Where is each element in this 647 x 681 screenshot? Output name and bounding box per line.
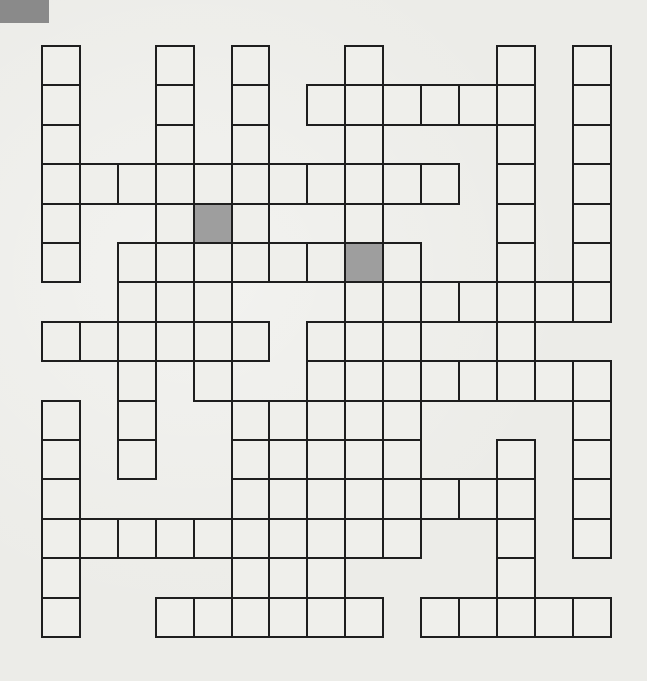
grid-cell[interactable] bbox=[458, 84, 498, 126]
grid-cell[interactable] bbox=[231, 439, 270, 480]
grid-cell[interactable] bbox=[79, 163, 119, 205]
grid-cell[interactable] bbox=[306, 360, 346, 402]
grid-cell[interactable] bbox=[155, 518, 195, 559]
grid-cell[interactable] bbox=[344, 518, 384, 559]
grid-cell[interactable] bbox=[155, 84, 195, 126]
grid-cell[interactable] bbox=[231, 478, 270, 520]
grid-cell[interactable] bbox=[231, 84, 270, 126]
grid-cell[interactable] bbox=[496, 597, 536, 638]
grid-cell[interactable] bbox=[344, 163, 384, 205]
grid-cell[interactable] bbox=[344, 478, 384, 520]
grid-cell[interactable] bbox=[382, 360, 422, 402]
grid-cell[interactable] bbox=[306, 242, 346, 283]
grid-cell[interactable] bbox=[306, 557, 346, 599]
grid-cell[interactable] bbox=[268, 163, 308, 205]
grid-cell[interactable] bbox=[193, 242, 233, 283]
grid-cell[interactable] bbox=[268, 518, 308, 559]
grid-cell[interactable] bbox=[572, 281, 612, 323]
grid-cell[interactable] bbox=[382, 439, 422, 480]
grid-cell[interactable] bbox=[572, 478, 612, 520]
grid-cell[interactable] bbox=[306, 84, 346, 126]
grid-cell[interactable] bbox=[306, 518, 346, 559]
grid-cell[interactable] bbox=[231, 163, 270, 205]
grid-cell[interactable] bbox=[420, 360, 460, 402]
grid-cell[interactable] bbox=[41, 557, 81, 599]
grid-cell[interactable] bbox=[41, 84, 81, 126]
grid-cell[interactable] bbox=[344, 281, 384, 323]
grid-cell[interactable] bbox=[382, 518, 422, 559]
grid-cell[interactable] bbox=[41, 478, 81, 520]
grid-cell[interactable] bbox=[382, 242, 422, 283]
grid-cell[interactable] bbox=[496, 281, 536, 323]
grid-cell[interactable] bbox=[268, 439, 308, 480]
grid-cell[interactable] bbox=[231, 45, 270, 86]
grid-cell[interactable] bbox=[41, 518, 81, 559]
grid-cell[interactable] bbox=[534, 597, 574, 638]
grid-cell[interactable] bbox=[193, 281, 233, 323]
grid-cell[interactable] bbox=[572, 400, 612, 441]
grid-cell[interactable] bbox=[572, 518, 612, 559]
grid-cell[interactable] bbox=[382, 163, 422, 205]
grid-cell[interactable] bbox=[420, 281, 460, 323]
grid-cell[interactable] bbox=[496, 439, 536, 480]
grid-cell[interactable] bbox=[382, 478, 422, 520]
grid-cell[interactable] bbox=[155, 163, 195, 205]
grid-cell[interactable] bbox=[268, 597, 308, 638]
grid-cell[interactable] bbox=[496, 45, 536, 86]
grid-cell[interactable] bbox=[193, 597, 233, 638]
grid-cell[interactable] bbox=[155, 242, 195, 283]
grid-cell[interactable] bbox=[572, 597, 612, 638]
grid-cell[interactable] bbox=[155, 124, 195, 165]
grid-cell[interactable] bbox=[572, 45, 612, 86]
grid-cell[interactable] bbox=[306, 439, 346, 480]
grid-cell[interactable] bbox=[344, 124, 384, 165]
grid-cell[interactable] bbox=[572, 439, 612, 480]
grid-cell[interactable] bbox=[155, 281, 195, 323]
grid-cell[interactable] bbox=[572, 203, 612, 244]
grid-cell[interactable] bbox=[344, 360, 384, 402]
grid-cell[interactable] bbox=[382, 84, 422, 126]
grid-cell[interactable] bbox=[458, 360, 498, 402]
grid-cell[interactable] bbox=[268, 400, 308, 441]
grid-cell[interactable] bbox=[344, 400, 384, 441]
grid-cell[interactable] bbox=[344, 45, 384, 86]
grid-cell[interactable] bbox=[458, 478, 498, 520]
grid-cell[interactable] bbox=[306, 321, 346, 362]
grid-cell[interactable] bbox=[193, 321, 233, 362]
grid-cell[interactable] bbox=[231, 518, 270, 559]
grid-cell[interactable] bbox=[458, 597, 498, 638]
grid-cell[interactable] bbox=[79, 321, 119, 362]
grid-cell[interactable] bbox=[572, 163, 612, 205]
grid-cell[interactable] bbox=[496, 321, 536, 362]
grid-cell[interactable] bbox=[572, 124, 612, 165]
grid-cell[interactable] bbox=[155, 45, 195, 86]
grid-cell[interactable] bbox=[534, 360, 574, 402]
grid-cell[interactable] bbox=[231, 242, 270, 283]
grid-cell[interactable] bbox=[496, 242, 536, 283]
grid-cell[interactable] bbox=[420, 597, 460, 638]
grid-cell[interactable] bbox=[382, 400, 422, 441]
grid-cell[interactable] bbox=[41, 439, 81, 480]
grid-cell[interactable] bbox=[41, 242, 81, 283]
grid-cell[interactable] bbox=[231, 321, 270, 362]
grid-cell[interactable] bbox=[41, 124, 81, 165]
grid-cell[interactable] bbox=[344, 439, 384, 480]
grid-cell[interactable] bbox=[420, 163, 460, 205]
grid-cell[interactable] bbox=[344, 203, 384, 244]
grid-cell[interactable] bbox=[420, 84, 460, 126]
grid-cell[interactable] bbox=[155, 321, 195, 362]
grid-cell[interactable] bbox=[41, 597, 81, 638]
grid-cell[interactable] bbox=[496, 478, 536, 520]
grid-cell[interactable] bbox=[496, 518, 536, 559]
grid-cell[interactable] bbox=[41, 203, 81, 244]
grid-cell[interactable] bbox=[268, 478, 308, 520]
grid-cell[interactable] bbox=[268, 242, 308, 283]
grid-cell[interactable] bbox=[231, 597, 270, 638]
grid-cell[interactable] bbox=[231, 557, 270, 599]
grid-cell[interactable] bbox=[344, 321, 384, 362]
grid-cell[interactable] bbox=[117, 242, 157, 283]
grid-cell[interactable] bbox=[344, 84, 384, 126]
grid-cell[interactable] bbox=[231, 203, 270, 244]
grid-cell[interactable] bbox=[496, 84, 536, 126]
grid-cell[interactable] bbox=[117, 281, 157, 323]
